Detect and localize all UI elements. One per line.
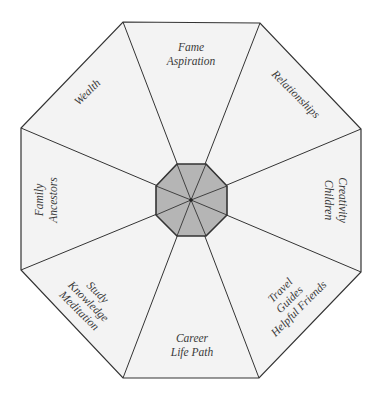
label-fame: Fame — [177, 41, 204, 53]
label-ancestors: Ancestors — [47, 177, 59, 224]
label-children: Children — [323, 180, 335, 221]
label-life-path: Life Path — [170, 346, 214, 359]
bagua-diagram: Fame Aspiration Relationships Creativity… — [0, 0, 382, 401]
label-creativity: Creativity — [336, 177, 349, 223]
label-career: Career — [176, 332, 209, 344]
label-family: Family — [33, 183, 46, 217]
center-point — [189, 198, 192, 201]
label-aspiration: Aspiration — [166, 55, 216, 68]
section-career: Career Life Path — [170, 332, 214, 359]
